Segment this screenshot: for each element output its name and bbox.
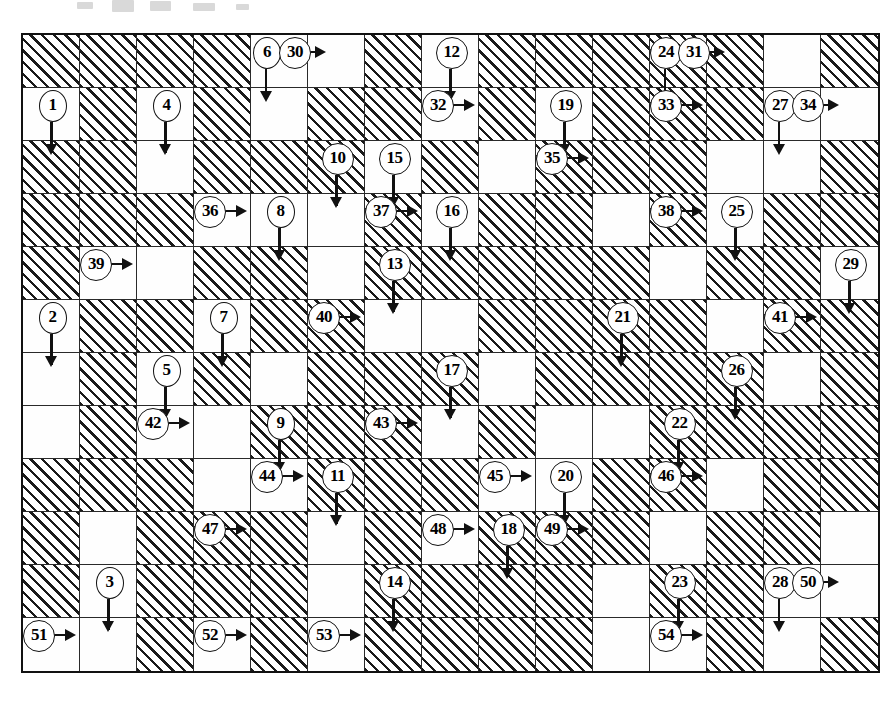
answer-cell[interactable] <box>593 194 650 247</box>
arrow-down-icon <box>778 122 780 153</box>
clue-number: 52 <box>194 620 226 652</box>
blocked-cell <box>422 141 479 194</box>
answer-cell[interactable] <box>23 406 80 459</box>
clue-number: 14 <box>379 567 411 599</box>
crossword-grid[interactable]: 6301224311432193327341015353683716382539… <box>21 33 880 673</box>
blocked-cell <box>536 618 593 671</box>
answer-cell[interactable] <box>194 406 251 459</box>
blocked-cell <box>137 459 194 512</box>
blocked-cell <box>80 88 137 141</box>
arrow-right-icon <box>166 422 188 424</box>
blocked-cell <box>137 35 194 88</box>
clue-number: 29 <box>835 249 867 281</box>
clue-number: 3 <box>96 567 124 599</box>
answer-cell[interactable] <box>251 353 308 406</box>
blocked-cell <box>764 512 821 565</box>
blocked-cell <box>536 300 593 353</box>
clue-number: 31 <box>678 37 710 69</box>
blocked-cell <box>137 565 194 618</box>
arrow-down-icon <box>734 228 736 259</box>
answer-cell[interactable] <box>707 300 764 353</box>
answer-cell[interactable] <box>821 512 878 565</box>
answer-cell[interactable] <box>593 618 650 671</box>
clue-number: 32 <box>422 90 454 122</box>
answer-cell[interactable] <box>137 247 194 300</box>
answer-cell[interactable] <box>821 565 878 618</box>
blocked-cell <box>593 141 650 194</box>
clue-number: 11 <box>322 461 354 493</box>
answer-cell[interactable] <box>707 459 764 512</box>
blocked-cell <box>365 459 422 512</box>
blocked-cell <box>23 35 80 88</box>
arrow-down-icon <box>848 281 850 312</box>
answer-cell[interactable] <box>308 565 365 618</box>
clue-number: 16 <box>436 196 468 228</box>
arrow-down-icon <box>335 493 337 524</box>
blocked-cell <box>650 353 707 406</box>
blocked-cell <box>422 459 479 512</box>
clue-number: 15 <box>379 143 411 175</box>
arrow-down-icon <box>392 281 394 312</box>
arrow-down-icon <box>265 69 267 100</box>
arrow-down-icon <box>164 122 166 153</box>
answer-cell[interactable] <box>536 406 593 459</box>
clue-number: 41 <box>764 302 796 334</box>
blocked-cell <box>308 88 365 141</box>
answer-cell[interactable] <box>479 353 536 406</box>
clue-number: 47 <box>194 514 226 546</box>
clue-number: 39 <box>80 249 112 281</box>
arrow-right-icon <box>679 104 701 106</box>
clue-number: 54 <box>650 620 682 652</box>
arrow-down-icon <box>620 334 622 365</box>
answer-cell[interactable] <box>764 353 821 406</box>
blocked-cell <box>194 247 251 300</box>
blocked-cell <box>707 565 764 618</box>
answer-cell[interactable] <box>764 35 821 88</box>
answer-cell[interactable] <box>707 141 764 194</box>
clue-number: 6 <box>253 37 281 69</box>
scan-smudge <box>193 3 215 11</box>
blocked-cell <box>137 194 194 247</box>
blocked-cell <box>764 247 821 300</box>
blocked-cell <box>536 247 593 300</box>
blocked-cell <box>137 300 194 353</box>
scan-smudge <box>236 4 249 10</box>
blocked-cell <box>707 35 764 88</box>
blocked-cell <box>80 194 137 247</box>
answer-cell[interactable] <box>80 512 137 565</box>
answer-cell[interactable] <box>593 565 650 618</box>
answer-cell[interactable] <box>593 406 650 459</box>
arrow-right-icon <box>280 475 302 477</box>
answer-cell[interactable] <box>194 459 251 512</box>
arrow-right-icon <box>223 528 245 530</box>
answer-cell[interactable] <box>821 88 878 141</box>
clue-number: 49 <box>536 514 568 546</box>
clue-number: 40 <box>308 302 340 334</box>
blocked-cell <box>80 35 137 88</box>
arrow-right-icon <box>565 528 587 530</box>
clue-number: 53 <box>308 620 340 652</box>
clue-number: 50 <box>792 567 824 599</box>
clue-number: 35 <box>536 143 568 175</box>
blocked-cell <box>365 88 422 141</box>
answer-cell[interactable] <box>650 247 707 300</box>
blocked-cell <box>821 618 878 671</box>
blocked-cell <box>23 194 80 247</box>
blocked-cell <box>308 406 365 459</box>
answer-cell[interactable] <box>308 35 365 88</box>
blocked-cell <box>308 353 365 406</box>
arrow-down-icon <box>449 387 451 418</box>
answer-cell[interactable] <box>650 512 707 565</box>
clue-number: 46 <box>650 461 682 493</box>
blocked-cell <box>251 300 308 353</box>
clue-number: 9 <box>267 408 295 440</box>
clue-number: 2 <box>39 302 67 334</box>
answer-cell[interactable] <box>479 141 536 194</box>
blocked-cell <box>194 88 251 141</box>
blocked-cell <box>593 88 650 141</box>
answer-cell[interactable] <box>422 300 479 353</box>
clue-number: 26 <box>721 355 753 387</box>
answer-cell[interactable] <box>308 247 365 300</box>
blocked-cell <box>365 35 422 88</box>
blocked-cell <box>650 141 707 194</box>
